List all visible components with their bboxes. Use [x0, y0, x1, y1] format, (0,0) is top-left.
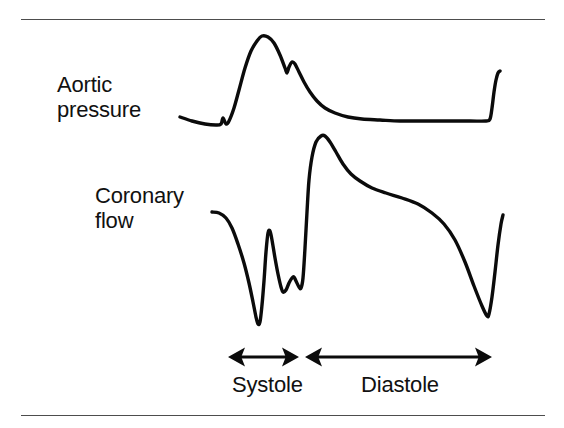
aortic-pressure-trace — [180, 36, 500, 125]
systole-double-arrow — [228, 348, 299, 367]
coronary-flow-label: Coronary flow — [95, 183, 184, 233]
aortic-pressure-label: Aortic pressure — [57, 72, 141, 122]
figure-container: Aortic pressure Coronary flow Systole Di… — [0, 0, 564, 428]
systole-label: Systole — [232, 372, 303, 397]
coronary-flow-label-line2: flow — [95, 208, 184, 233]
aortic-pressure-label-line1: Aortic — [57, 72, 141, 97]
diastole-double-arrow — [305, 348, 492, 367]
coronary-flow-trace — [212, 135, 503, 324]
diastole-label: Diastole — [361, 372, 439, 397]
aortic-pressure-label-line2: pressure — [57, 97, 141, 122]
waveform-layer — [0, 0, 564, 428]
coronary-flow-label-line1: Coronary — [95, 183, 184, 208]
